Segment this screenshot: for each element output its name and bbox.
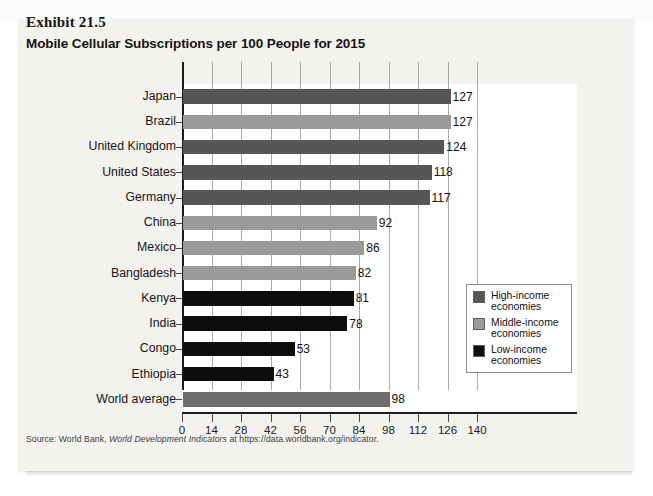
bar-germany: [183, 190, 430, 205]
bar-japan: [183, 89, 451, 104]
bar-ethiopia: [183, 367, 274, 382]
bar-value-brazil: 127: [453, 115, 473, 129]
chart-legend: High-income economies Middle-income econ…: [466, 284, 572, 373]
chart-row: Mexico86: [0, 235, 616, 260]
category-tick: [176, 324, 182, 325]
category-tick: [176, 223, 182, 224]
bar-value-united-kingdom: 124: [446, 140, 466, 154]
bar-bangladesh: [183, 266, 356, 281]
bar-mexico: [183, 241, 364, 256]
legend-label-low: Low-income economies: [491, 344, 565, 367]
legend-label-middle: Middle-income economies: [491, 317, 565, 340]
category-tick: [176, 248, 182, 249]
source-prefix: Source: World Bank,: [26, 434, 107, 444]
bar-united-kingdom: [183, 140, 444, 155]
category-label-bangladesh: Bangladesh: [111, 261, 176, 286]
category-label-world-average: World average: [96, 387, 176, 412]
x-tick-56: [300, 414, 301, 422]
bar-value-united-states: 118: [434, 165, 453, 179]
x-tick-126: [448, 414, 449, 422]
chart-row: Germany117: [0, 185, 616, 210]
category-label-brazil: Brazil: [145, 109, 176, 134]
chart-plot-area: Japan127Brazil127United Kingdom124United…: [0, 62, 616, 432]
bar-united-states: [183, 165, 432, 180]
x-tick-112: [418, 414, 419, 422]
bar-value-china: 92: [379, 216, 392, 230]
bar-brazil: [183, 115, 451, 130]
category-label-congo: Congo: [140, 336, 176, 361]
legend-swatch-high-icon: [473, 291, 485, 303]
category-label-china: China: [144, 210, 176, 235]
bar-value-world-average: 98: [392, 392, 405, 406]
category-tick: [176, 172, 182, 173]
source-italic-title: World Development Indicators: [109, 434, 227, 444]
category-label-japan: Japan: [142, 84, 176, 109]
x-tick-label-126: 126: [438, 424, 457, 436]
chart-row: Brazil127: [0, 109, 616, 134]
source-note: Source: World Bank, World Development In…: [26, 434, 379, 444]
x-tick-label-140: 140: [467, 424, 486, 436]
category-tick: [176, 298, 182, 299]
category-tick: [176, 122, 182, 123]
bar-value-bangladesh: 82: [358, 266, 371, 280]
category-label-united-states: United States: [102, 160, 176, 185]
x-tick-84: [359, 414, 360, 422]
legend-item-low: Low-income economies: [473, 344, 565, 367]
bar-world-average: [183, 392, 390, 407]
category-label-germany: Germany: [125, 185, 176, 210]
category-tick: [176, 198, 182, 199]
category-label-india: India: [149, 311, 176, 336]
chart-row: Japan127: [0, 84, 616, 109]
category-tick: [176, 349, 182, 350]
legend-swatch-low-icon: [473, 345, 485, 357]
x-tick-label-112: 112: [409, 424, 427, 436]
page-background: Exhibit 21.5 Mobile Cellular Subscriptio…: [0, 0, 653, 496]
exhibit-number: Exhibit 21.5: [26, 14, 106, 31]
legend-label-high: High-income economies: [491, 290, 565, 313]
bar-congo: [183, 342, 295, 357]
chart-row: United Kingdom124: [0, 134, 616, 159]
bar-value-congo: 53: [297, 342, 310, 356]
x-tick-28: [241, 414, 242, 422]
category-label-united-kingdom: United Kingdom: [89, 134, 177, 159]
category-label-mexico: Mexico: [137, 235, 176, 260]
x-tick-140: [477, 414, 478, 422]
bar-kenya: [183, 291, 354, 306]
x-tick-70: [330, 414, 331, 422]
exhibit-title: Mobile Cellular Subscriptions per 100 Pe…: [26, 36, 365, 51]
bar-value-india: 78: [349, 317, 362, 331]
x-tick-label-98: 98: [382, 424, 395, 436]
bar-value-mexico: 86: [366, 241, 379, 255]
bar-india: [183, 316, 347, 331]
card-shadow: [26, 471, 632, 477]
bar-value-ethiopia: 43: [276, 367, 289, 381]
x-tick-42: [271, 414, 272, 422]
bar-value-japan: 127: [453, 90, 473, 104]
chart-row: World average98: [0, 387, 616, 412]
legend-item-middle: Middle-income economies: [473, 317, 565, 340]
category-label-kenya: Kenya: [141, 286, 176, 311]
category-tick: [176, 147, 182, 148]
x-axis-line-right: [478, 412, 577, 414]
category-tick: [176, 97, 182, 98]
bar-value-germany: 117: [432, 191, 451, 205]
bar-value-kenya: 81: [356, 291, 369, 305]
legend-swatch-middle-icon: [473, 318, 485, 330]
chart-row: Bangladesh82: [0, 261, 616, 286]
category-tick: [176, 374, 182, 375]
category-tick: [176, 399, 182, 400]
chart-row: China92: [0, 210, 616, 235]
source-suffix: at https://data.worldbank.org/indicator.: [229, 434, 378, 444]
chart-row: United States118: [0, 160, 616, 185]
x-tick-14: [212, 414, 213, 422]
category-tick: [176, 273, 182, 274]
x-tick-0: [182, 414, 183, 422]
category-label-ethiopia: Ethiopia: [132, 362, 176, 387]
legend-item-high: High-income economies: [473, 290, 565, 313]
bar-china: [183, 216, 377, 231]
x-tick-98: [389, 414, 390, 422]
